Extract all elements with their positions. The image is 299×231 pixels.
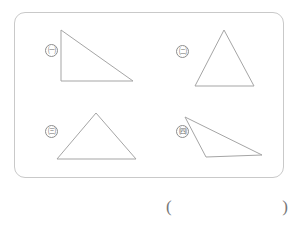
figure-panel: ㈠ ㈡ ㈢ ㈣ xyxy=(14,12,284,178)
figure-label-3: ㈢ xyxy=(45,125,58,138)
figure-label-4: ㈣ xyxy=(176,125,189,138)
open-paren: ( xyxy=(166,198,172,215)
figure-label-2: ㈡ xyxy=(176,45,189,58)
close-paren: ) xyxy=(282,198,288,215)
figure-label-1: ㈠ xyxy=(45,44,58,57)
answer-blank[interactable]: ( ) xyxy=(166,194,288,218)
